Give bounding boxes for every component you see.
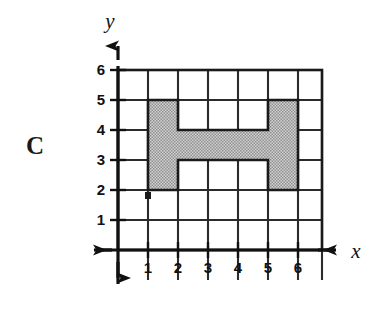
y-axis-label: y	[103, 9, 115, 33]
y-tick-label-4: 4	[97, 121, 106, 138]
x-tick-label-5: 5	[264, 259, 272, 276]
x-tick-label-3: 3	[204, 259, 212, 276]
x-tick-label-6: 6	[294, 259, 302, 276]
shaded-h-shape	[148, 100, 298, 190]
coordinate-plot: 1 2 3 4 5 6 1 2 3 4 5 6 y x	[0, 0, 385, 310]
x-tick-label-1: 1	[144, 259, 152, 276]
y-tick-label-6: 6	[97, 61, 105, 78]
y-tick-label-2: 2	[97, 181, 105, 198]
y-tick-label-1: 1	[97, 211, 105, 228]
y-tick-label-3: 3	[97, 151, 105, 168]
origin-marker-point	[145, 192, 151, 199]
x-tick-label-2: 2	[174, 259, 182, 276]
figure-container: C	[0, 0, 385, 310]
y-tick-label-5: 5	[97, 91, 105, 108]
x-tick-label-4: 4	[234, 259, 243, 276]
x-axis-label: x	[350, 239, 361, 263]
y-tick-labels: 1 2 3 4 5 6	[97, 61, 106, 228]
x-tick-labels: 1 2 3 4 5 6	[144, 259, 302, 276]
